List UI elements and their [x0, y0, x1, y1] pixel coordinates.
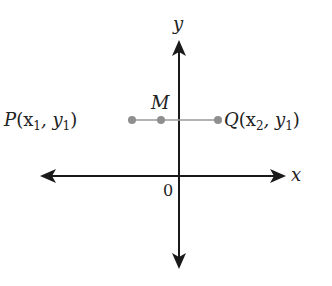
y-axis [172, 40, 186, 269]
y-axis-label: y [172, 13, 184, 34]
x-axis-label: x [291, 164, 301, 185]
point-p-dot [128, 116, 136, 124]
point-p-label: P(x1, y1) [3, 109, 77, 133]
origin-label: 0 [163, 181, 173, 200]
point-m-label: M [150, 92, 170, 113]
point-q-label: Q(x2, y1) [224, 109, 300, 133]
point-m-dot [157, 116, 165, 124]
point-q-dot [214, 116, 222, 124]
coordinate-diagram: y x 0 M P(x1, y1) Q(x2, y1) [0, 0, 332, 286]
